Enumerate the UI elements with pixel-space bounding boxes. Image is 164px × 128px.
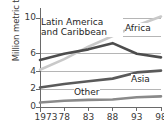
series-label-asia: Asia: [131, 74, 150, 84]
x-tick-label: 88: [104, 112, 122, 122]
x-tick-label: 78: [55, 112, 73, 122]
line-chart: Million metric tons Latin America and Ca…: [0, 0, 164, 128]
series-label-africa: Africa: [125, 23, 151, 33]
x-tick-label: 93: [128, 112, 146, 122]
y-tick-label: 4: [14, 66, 36, 76]
x-tick-label: 83: [79, 112, 97, 122]
y-tick-label: 6: [14, 48, 36, 58]
y-tick-label: 10: [14, 12, 36, 22]
y-tick-label: 0: [14, 101, 36, 111]
series-label-latin-america: Latin America and Caribbean: [41, 17, 123, 37]
x-tick-label: 98: [152, 112, 164, 122]
y-tick-label: 2: [14, 83, 36, 93]
series-label-other: Other: [74, 87, 100, 97]
